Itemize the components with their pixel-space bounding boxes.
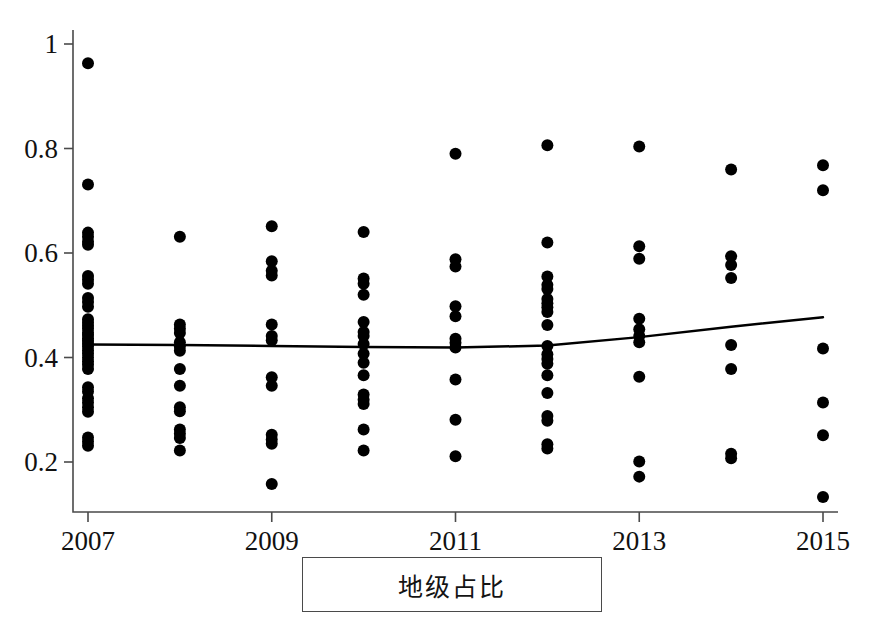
data-point xyxy=(817,343,829,355)
x-tick-label: 2015 xyxy=(796,526,850,556)
data-point xyxy=(817,429,829,441)
data-point xyxy=(82,440,94,452)
data-point xyxy=(174,445,186,457)
data-point xyxy=(633,455,645,467)
x-tick-label: 2013 xyxy=(612,526,666,556)
data-point xyxy=(817,396,829,408)
data-point xyxy=(541,237,553,249)
data-point xyxy=(266,220,278,232)
figure-container: 0.20.40.60.81 20072009201120132015 地级占比 xyxy=(0,0,871,642)
data-point xyxy=(633,471,645,483)
data-point xyxy=(633,240,645,252)
data-point xyxy=(450,148,462,160)
data-point xyxy=(82,301,94,313)
data-point xyxy=(358,445,370,457)
data-point xyxy=(82,57,94,69)
data-point xyxy=(725,163,737,175)
data-point-markers xyxy=(82,57,829,503)
data-point xyxy=(450,373,462,385)
data-point xyxy=(266,334,278,346)
data-point xyxy=(82,278,94,290)
data-point xyxy=(266,438,278,450)
data-point xyxy=(633,140,645,152)
data-point xyxy=(174,432,186,444)
data-point xyxy=(725,452,737,464)
data-point xyxy=(725,339,737,351)
data-point xyxy=(82,239,94,251)
x-axis-ticks xyxy=(88,512,823,522)
data-point xyxy=(266,269,278,281)
data-point xyxy=(358,398,370,410)
data-point xyxy=(541,442,553,454)
data-point xyxy=(174,380,186,392)
data-point xyxy=(725,363,737,375)
data-point xyxy=(358,289,370,301)
y-tick-label: 0.8 xyxy=(24,134,58,164)
x-tick-label: 2007 xyxy=(61,526,115,556)
data-point xyxy=(358,424,370,436)
data-point xyxy=(174,405,186,417)
data-point xyxy=(450,414,462,426)
data-point xyxy=(541,387,553,399)
data-point xyxy=(817,159,829,171)
data-point xyxy=(541,139,553,151)
data-point xyxy=(725,259,737,271)
caption-box: 地级占比 xyxy=(302,557,602,612)
data-point xyxy=(450,450,462,462)
x-axis-tick-labels: 20072009201120132015 xyxy=(61,526,850,556)
y-tick-label: 0.2 xyxy=(24,447,58,477)
y-tick-label: 0.6 xyxy=(24,238,58,268)
data-point xyxy=(358,278,370,290)
data-point xyxy=(358,226,370,238)
data-point xyxy=(174,345,186,357)
x-tick-label: 2011 xyxy=(429,526,482,556)
data-point xyxy=(633,253,645,265)
caption-label: 地级占比 xyxy=(398,567,506,603)
data-point xyxy=(541,319,553,331)
data-point xyxy=(541,358,553,370)
data-point xyxy=(817,491,829,503)
data-point xyxy=(82,406,94,418)
data-point xyxy=(266,380,278,392)
data-point xyxy=(266,478,278,490)
x-tick-label: 2009 xyxy=(245,526,299,556)
data-point xyxy=(633,313,645,325)
y-tick-label: 0.4 xyxy=(24,343,58,373)
data-point xyxy=(817,184,829,196)
data-point xyxy=(82,363,94,375)
data-point xyxy=(174,231,186,243)
data-point xyxy=(450,310,462,322)
data-point xyxy=(541,306,553,318)
data-point xyxy=(541,369,553,381)
data-point xyxy=(633,371,645,383)
data-point xyxy=(358,369,370,381)
data-point xyxy=(541,415,553,427)
y-axis-ticks xyxy=(64,44,73,462)
data-point xyxy=(450,261,462,273)
y-axis-tick-labels: 0.20.40.60.81 xyxy=(24,29,58,477)
data-point xyxy=(725,272,737,284)
data-point xyxy=(82,179,94,191)
data-point xyxy=(174,363,186,375)
data-point xyxy=(358,357,370,369)
scatter-plot: 0.20.40.60.81 20072009201120132015 xyxy=(0,0,871,642)
data-point xyxy=(266,319,278,331)
y-tick-label: 1 xyxy=(45,29,59,59)
